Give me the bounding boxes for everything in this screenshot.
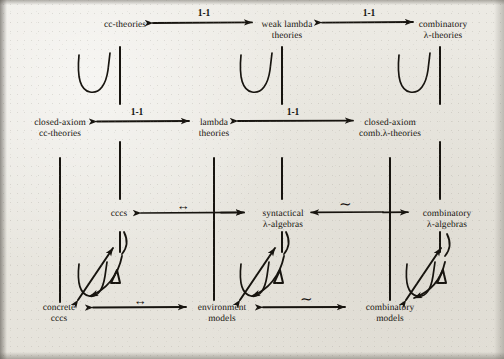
arrow-label-row3-right: ∼ (339, 199, 352, 209)
scan-edge-right (494, 0, 504, 359)
node-cccs: cccs (111, 209, 128, 220)
node-lambda-theories: lambda theories (199, 118, 229, 140)
diagonal-arrow-combinatory-alg-models (406, 248, 441, 300)
arrow-label-mid-left: 1-1 (131, 107, 144, 117)
arrow-closed-axiom-cc-lambda-theories (97, 121, 189, 122)
node-label-line2: cccs (43, 314, 76, 325)
arrow-label-top-right: 1-1 (363, 8, 376, 18)
node-label-line1: weak lambda (262, 20, 313, 31)
node-combinatory-models: combinatory models (366, 303, 414, 325)
node-label-line1: cc-theories (104, 20, 146, 31)
arrow-label-mid-right: 1-1 (287, 107, 300, 117)
node-label-line1: concrete (43, 303, 76, 314)
node-label-line1: combinatory (423, 209, 471, 220)
diagram-artwork (0, 0, 504, 359)
node-label-line2: λ-algebras (262, 220, 303, 231)
node-closed-axiom-comb-lambda-theories: closed-axiom comb.λ-theories (359, 118, 421, 140)
node-label-line1: environment (198, 303, 246, 314)
arrow-label-row4-left: ↔ (134, 293, 147, 309)
node-label-line2: theories (262, 31, 313, 42)
delta-glyphs (111, 270, 446, 283)
inclusion-u-glyphs (78, 53, 435, 296)
node-combinatory-lambda-theories: combinatory λ-theories (419, 20, 467, 42)
vertical-bars (60, 47, 440, 302)
arrow-label-row4-right: ∼ (300, 294, 313, 304)
diagonal-arrow-cccs-concrete (78, 248, 113, 300)
node-cc-theories: cc-theories (104, 20, 146, 31)
node-label-line1: closed-axiom (34, 118, 86, 129)
node-label-line1: closed-axiom (359, 118, 421, 129)
node-concrete-cccs: concrete cccs (43, 303, 76, 325)
node-environment-models: environment models (198, 303, 246, 325)
node-label-line1: cccs (111, 209, 128, 220)
arrow-weak-lambda-combinatory-lambda (322, 22, 413, 23)
node-combinatory-lambda-algebras: combinatory λ-algebras (423, 209, 471, 231)
node-label-line2: theories (199, 129, 229, 140)
hook-strokes (122, 232, 449, 256)
node-weak-lambda-theories: weak lambda theories (262, 20, 313, 42)
figure-canvas: cc-theories weak lambda theories combina… (0, 0, 504, 359)
arrow-cc-theories-weak-lambda (153, 22, 252, 23)
node-label-line2: models (366, 314, 414, 325)
node-syntactical-lambda-algebras: syntactical λ-algebras (262, 209, 303, 231)
scan-edge-left (0, 0, 7, 359)
node-label-line2: λ-theories (419, 31, 467, 42)
node-label-line2: cc-theories (34, 129, 86, 140)
node-label-line1: lambda (199, 118, 229, 129)
diagonal-arrow-syntactical-environment (240, 248, 275, 300)
node-label-line2: models (198, 314, 246, 325)
scan-edge-bottom (0, 352, 504, 359)
scan-edge-top (0, 0, 504, 5)
node-label-line1: syntactical (262, 209, 303, 220)
node-label-line2: comb.λ-theories (359, 129, 421, 140)
node-label-line2: λ-algebras (423, 220, 471, 231)
node-label-line1: combinatory (419, 20, 467, 31)
arrow-label-top-left: 1-1 (198, 8, 211, 18)
arrow-label-row3-left: ↔ (177, 198, 190, 214)
node-closed-axiom-cc-theories: closed-axiom cc-theories (34, 118, 86, 140)
node-label-line1: combinatory (366, 303, 414, 314)
